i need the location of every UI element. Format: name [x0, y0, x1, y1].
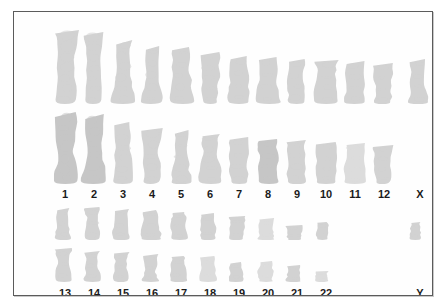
chromosome-label-13: 13: [54, 286, 76, 296]
chromosome-6: [199, 134, 221, 184]
chromosome-row-lower-first: [14, 202, 433, 240]
chromosome-label-11: 11: [344, 187, 366, 201]
chromosome-label-6: 6: [199, 187, 221, 201]
chromosome-7: [228, 137, 250, 184]
chromosome-8: [257, 139, 279, 184]
chromosome-1: [54, 112, 78, 184]
chromosome-8: [257, 57, 279, 104]
chromosome-label-16: 16: [141, 286, 163, 296]
chromosome-19: [228, 216, 246, 240]
chromosome-3: [112, 122, 134, 184]
chromosome-label-X: X: [409, 187, 431, 201]
chromosome-4: [141, 128, 163, 184]
chromosome-18: [199, 213, 217, 240]
chromosome-label-15: 15: [112, 286, 134, 296]
chromosome-21: [286, 265, 301, 282]
chromosome-label-21: 21: [286, 286, 308, 296]
chromosome-4: [141, 46, 163, 104]
chromosome-3: [112, 40, 134, 104]
chromosome-2: [83, 32, 105, 104]
chromosome-label-20: 20: [257, 286, 279, 296]
chromosome-14: [83, 251, 101, 282]
chromosome-11: [344, 61, 366, 104]
chromosome-14: [83, 207, 101, 240]
chromosome-X: [409, 59, 427, 104]
chromosome-label-19: 19: [228, 286, 250, 296]
chromosome-15: [112, 209, 130, 240]
chromosome-2: [83, 114, 105, 184]
chromosome-row-upper-second: [14, 108, 433, 184]
label-row-upper: 123456789101112X: [14, 187, 433, 201]
chromosome-label-7: 7: [228, 187, 250, 201]
chromosome-10: [315, 60, 337, 104]
chromosome-6: [199, 52, 221, 104]
chromosome-label-4: 4: [141, 187, 163, 201]
chromosome-12: [373, 63, 393, 104]
chromosome-label-Y: Y: [409, 286, 431, 296]
chromosome-5: [170, 47, 192, 104]
chromosome-19: [228, 262, 244, 282]
chromosome-Y: [409, 222, 422, 240]
chromosome-label-22: 22: [315, 286, 337, 296]
chromosome-18: [199, 256, 217, 282]
chromosome-11: [344, 143, 366, 184]
chromosome-7: [228, 56, 250, 104]
chromosome-row-upper-first: [14, 26, 433, 104]
chromosome-22: [315, 271, 328, 282]
chromosome-17: [170, 256, 186, 282]
chromosome-5: [170, 130, 192, 184]
chromosome-label-5: 5: [170, 187, 192, 201]
chromosome-22: [315, 222, 330, 240]
chromosome-label-14: 14: [83, 286, 105, 296]
chromosome-label-3: 3: [112, 187, 134, 201]
chromosome-13: [54, 248, 72, 282]
karyogram-plate: 123456789101112X 13141516171819202122Y: [13, 11, 433, 296]
chromosome-15: [112, 252, 130, 282]
chromosome-9: [286, 59, 306, 104]
karyotype-figure: 123456789101112X 13141516171819202122Y: [0, 0, 446, 307]
chromosome-16: [141, 210, 161, 240]
chromosome-label-17: 17: [170, 286, 192, 296]
chromosome-label-18: 18: [199, 286, 221, 296]
chromosome-17: [170, 212, 188, 240]
chromosome-12: [373, 145, 393, 184]
chromosome-16: [141, 254, 159, 282]
chromosome-label-9: 9: [286, 187, 308, 201]
chromosome-20: [257, 261, 275, 282]
chromosome-label-2: 2: [83, 187, 105, 201]
chromosome-10: [315, 142, 337, 184]
chromosome-label-12: 12: [373, 187, 395, 201]
chromosome-label-8: 8: [257, 187, 279, 201]
chromosome-21: [286, 225, 302, 240]
chromosome-20: [257, 218, 275, 240]
label-row-lower: 13141516171819202122Y: [14, 286, 433, 296]
chromosome-1: [54, 30, 78, 104]
chromosome-9: [286, 140, 306, 184]
chromosome-row-lower-second: [14, 244, 433, 282]
chromosome-label-10: 10: [315, 187, 337, 201]
chromosome-label-1: 1: [54, 187, 76, 201]
chromosome-13: [54, 208, 72, 240]
